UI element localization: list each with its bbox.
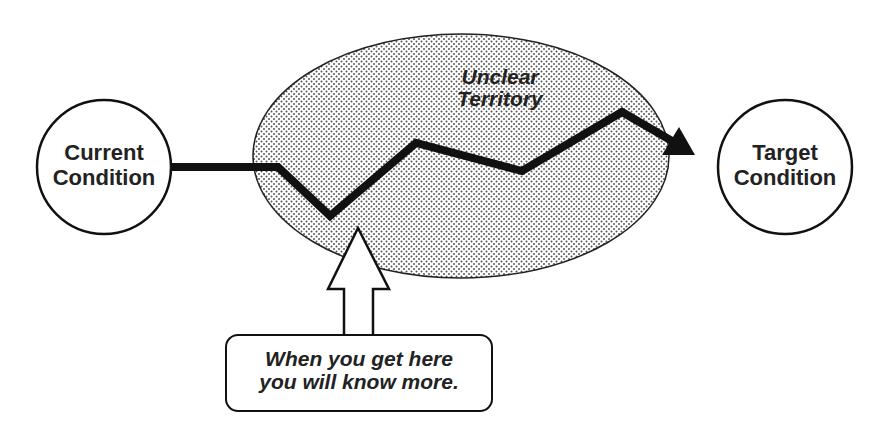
target-condition-line2: Condition xyxy=(725,165,845,190)
callout-line1: When you get here xyxy=(226,347,492,370)
current-condition-line2: Condition xyxy=(44,165,164,190)
callout-line2: you will know more. xyxy=(226,370,492,393)
callout-label: When you get here you will know more. xyxy=(226,347,492,393)
target-condition-line1: Target xyxy=(725,140,845,165)
current-condition-label: Current Condition xyxy=(44,140,164,191)
target-condition-label: Target Condition xyxy=(725,140,845,191)
unclear-territory-line2: Territory xyxy=(425,88,575,110)
current-condition-line1: Current xyxy=(44,140,164,165)
unclear-territory-label: Unclear Territory xyxy=(425,66,575,110)
unclear-territory-line1: Unclear xyxy=(425,66,575,88)
